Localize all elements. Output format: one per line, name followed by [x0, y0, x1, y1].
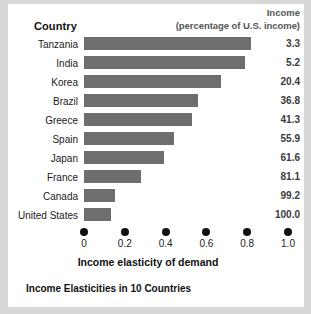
- bar-track: [84, 75, 288, 88]
- bar: [84, 170, 141, 183]
- income-value: 99.2: [281, 190, 300, 201]
- chart-row: France81.1: [8, 169, 304, 188]
- chart-caption: Income Elasticities in 10 Countries: [26, 283, 191, 294]
- bar-track: [84, 189, 288, 202]
- country-label: India: [8, 58, 78, 69]
- income-value: 55.9: [281, 133, 300, 144]
- chart-row: Brazil36.8: [8, 93, 304, 112]
- income-value: 41.3: [281, 114, 300, 125]
- country-label: Japan: [8, 153, 78, 164]
- column-header-income-line2: (percentage of U.S. income): [176, 20, 300, 33]
- x-axis: 00.20.40.60.81.0: [8, 228, 304, 256]
- country-label: United States: [8, 210, 78, 221]
- income-value: 5.2: [286, 57, 300, 68]
- axis-tick-dot: [202, 228, 210, 236]
- bar: [84, 132, 174, 145]
- axis-tick-dot: [243, 228, 251, 236]
- bar: [84, 113, 192, 126]
- axis-tick-label: 0.8: [233, 238, 261, 249]
- bar: [84, 189, 115, 202]
- chart-row: India5.2: [8, 55, 304, 74]
- chart-row: Spain55.9: [8, 131, 304, 150]
- chart-row: Japan61.6: [8, 150, 304, 169]
- bar: [84, 208, 111, 221]
- chart-card: Country Income (percentage of U.S. incom…: [8, 4, 304, 307]
- bar-track: [84, 56, 288, 69]
- country-label: Tanzania: [8, 39, 78, 50]
- bar-track: [84, 132, 288, 145]
- bar-track: [84, 170, 288, 183]
- axis-tick-label: 0.4: [152, 238, 180, 249]
- bar: [84, 75, 221, 88]
- bar-chart-plot: Tanzania3.3India5.2Korea20.4Brazil36.8Gr…: [8, 36, 304, 226]
- country-label: Spain: [8, 134, 78, 145]
- chart-row: Tanzania3.3: [8, 36, 304, 55]
- column-header-income-line1: Income: [176, 7, 300, 20]
- income-value: 61.6: [281, 152, 300, 163]
- income-value: 36.8: [281, 95, 300, 106]
- chart-header: Country Income (percentage of U.S. incom…: [8, 4, 304, 36]
- country-label: Greece: [8, 115, 78, 126]
- bar-track: [84, 94, 288, 107]
- axis-tick-dot: [284, 228, 292, 236]
- country-label: France: [8, 172, 78, 183]
- x-axis-title: Income elasticity of demand: [8, 256, 288, 268]
- column-header-income: Income (percentage of U.S. income): [176, 7, 300, 32]
- income-value: 81.1: [281, 171, 300, 182]
- income-value: 3.3: [286, 38, 300, 49]
- axis-tick-dot: [80, 228, 88, 236]
- income-value: 100.0: [275, 209, 300, 220]
- column-header-country: Country: [34, 20, 77, 32]
- axis-tick-label: 0.2: [111, 238, 139, 249]
- bar-track: [84, 113, 288, 126]
- chart-row: Korea20.4: [8, 74, 304, 93]
- axis-tick-dot: [162, 228, 170, 236]
- country-label: Brazil: [8, 96, 78, 107]
- bar-track: [84, 208, 288, 221]
- bar: [84, 37, 251, 50]
- bar-track: [84, 37, 288, 50]
- bar-track: [84, 151, 288, 164]
- axis-tick-label: 1.0: [274, 238, 302, 249]
- bar: [84, 94, 198, 107]
- axis-tick-label: 0.6: [192, 238, 220, 249]
- chart-row: United States100.0: [8, 207, 304, 226]
- country-label: Canada: [8, 191, 78, 202]
- chart-row: Canada99.2: [8, 188, 304, 207]
- bar: [84, 56, 245, 69]
- axis-tick-label: 0: [70, 238, 98, 249]
- income-value: 20.4: [281, 76, 300, 87]
- bar: [84, 151, 164, 164]
- country-label: Korea: [8, 77, 78, 88]
- chart-row: Greece41.3: [8, 112, 304, 131]
- axis-tick-dot: [121, 228, 129, 236]
